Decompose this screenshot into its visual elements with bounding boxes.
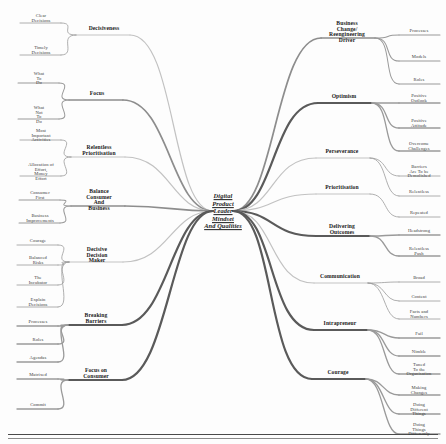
leaf-right-fail[interactable]: Fail: [415, 332, 423, 337]
leaf-left-timely-decisions[interactable]: Timely Decisions: [31, 46, 50, 55]
leaf-right-overcome-challenges[interactable]: Overcome Challenges: [408, 142, 429, 151]
branch-left-relentless-prioritisation[interactable]: Relentless Prioritisation: [82, 145, 115, 156]
leaf-left-commit[interactable]: Commit: [30, 403, 46, 408]
branch-left-focus[interactable]: Focus: [90, 91, 104, 97]
branch-right-communication[interactable]: Communication: [320, 274, 360, 280]
branch-right-business-change-reengineering-driver[interactable]: Business Change/ Reengineering Driver: [329, 21, 365, 44]
leaf-right-positive-outlook[interactable]: Positive Outlook: [411, 94, 427, 103]
leaf-left-business-improvements[interactable]: Business Improvements: [26, 214, 54, 223]
branch-left-focus-on-consumer[interactable]: Focus on Consumer: [83, 368, 109, 379]
mind-map-canvas: Digital Product Leader Mindset And Quali…: [0, 0, 446, 444]
leaf-right-models[interactable]: Models: [412, 55, 426, 60]
leaf-left-what-to-do[interactable]: What To Do: [34, 72, 44, 86]
branch-right-prioritisation[interactable]: Prioritisation: [325, 185, 358, 191]
leaf-right-broad[interactable]: Broad: [413, 276, 425, 281]
leaf-left-processes[interactable]: Processes: [29, 320, 48, 325]
leaf-right-nimble[interactable]: Nimble: [412, 350, 426, 355]
leaf-left-the-incubator[interactable]: The Incubator: [29, 276, 48, 285]
leaf-right-doing-different-things[interactable]: Doing Different Things: [410, 403, 428, 417]
branch-right-courage[interactable]: Courage: [327, 370, 348, 376]
leaf-right-positive-attitude[interactable]: Positive Attitude: [411, 119, 427, 128]
leaf-right-relentless-push[interactable]: Relentless Push: [409, 247, 429, 256]
leaf-right-tuned-to-the-organisation[interactable]: Tuned To the Organisation: [407, 363, 432, 377]
branch-right-delivering-outcomes[interactable]: Delivering Outcomes: [329, 224, 355, 235]
central-node[interactable]: Digital Product Leader Mindset And Quali…: [204, 192, 242, 230]
leaf-left-what-not-to-do[interactable]: What Not To Do: [34, 106, 44, 125]
leaf-right-repeated[interactable]: Repeated: [410, 211, 428, 216]
footer-divider-primary: [8, 434, 438, 435]
leaf-left-balanced-risks[interactable]: Balanced Risks: [29, 256, 47, 265]
leaf-right-facts-and-numbers[interactable]: Facts and Numbers: [410, 310, 428, 319]
branch-left-decisive-decision-maker[interactable]: Decisive Decision Maker: [87, 247, 108, 264]
leaf-left-explain-decisions[interactable]: Explain Decisions: [28, 298, 47, 307]
leaf-right-barriers-are-to-be-demolished[interactable]: Barriers Are To be Demolished: [407, 165, 430, 179]
footer-divider-secondary: [8, 438, 438, 439]
leaf-right-roles[interactable]: Roles: [414, 78, 425, 83]
branch-right-perseverance[interactable]: Perseverance: [326, 149, 359, 155]
branch-left-balance-consumer-and-business[interactable]: Balance Consumer And Business: [86, 189, 112, 212]
leaf-right-relentless[interactable]: Relentless: [409, 190, 429, 195]
leaf-right-content[interactable]: Content: [411, 295, 426, 300]
leaf-right-headstrong[interactable]: Headstrong: [408, 229, 430, 234]
leaf-left-consumer-first[interactable]: Consumer First: [30, 191, 50, 200]
leaf-left-roles[interactable]: Roles: [33, 338, 44, 343]
branch-right-optimism[interactable]: Optimism: [332, 94, 357, 100]
leaf-right-processes[interactable]: Processes: [410, 29, 429, 34]
leaf-left-allocation-of-effort-money-effort[interactable]: Allocation of Effort, Money Effort: [28, 163, 54, 182]
leaf-left-matrixed[interactable]: Matrixed: [29, 373, 47, 378]
branch-left-decisiveness[interactable]: Decisiveness: [89, 26, 120, 32]
leaf-left-agendas[interactable]: Agendas: [30, 356, 47, 361]
leaf-left-courage[interactable]: Courage: [30, 239, 46, 244]
branch-left-breaking-barriers[interactable]: Breaking Barriers: [85, 313, 108, 324]
leaf-left-most-important-activities[interactable]: Most Important Activities: [31, 129, 50, 143]
leaf-right-doing-things-differently[interactable]: Doing Things Differently: [408, 423, 429, 437]
leaf-right-making-changes[interactable]: Making Changes: [411, 386, 428, 395]
leaf-left-clear-decisions[interactable]: Clear Decisions: [31, 14, 50, 23]
branch-right-intrapreneur[interactable]: Intrapreneur: [324, 321, 357, 327]
